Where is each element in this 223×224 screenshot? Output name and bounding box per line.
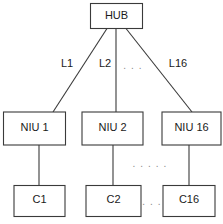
diagram-canvas: HUB NIU 1 NIU 2 NIU 16 C1 C2 C16 — [0, 0, 223, 224]
niu2-label: NIU 2 — [98, 121, 126, 133]
node-niu-16[interactable]: NIU 16 — [162, 112, 221, 145]
node-niu-2[interactable]: NIU 2 — [82, 112, 143, 145]
node-niu-1[interactable]: NIU 1 — [4, 112, 66, 145]
client-row-ellipsis: . . . — [142, 196, 161, 207]
link-label-l1: L1 — [61, 57, 73, 69]
c2-label: C2 — [106, 193, 120, 205]
link-label-l2: L2 — [99, 57, 111, 69]
niu1-label: NIU 1 — [20, 121, 48, 133]
node-client-2[interactable]: C2 — [86, 186, 141, 217]
c1-label: C1 — [32, 193, 46, 205]
node-client-16[interactable]: C16 — [163, 186, 215, 217]
links-ellipsis: . . . — [123, 60, 142, 71]
network-topology-diagram: HUB NIU 1 NIU 2 NIU 16 C1 C2 C16 — [0, 0, 223, 224]
c16-label: C16 — [179, 193, 199, 205]
link-line-l1 — [53, 29, 107, 113]
node-client-1[interactable]: C1 — [14, 186, 65, 217]
niu16-label: NIU 16 — [174, 121, 208, 133]
node-hub[interactable]: HUB — [91, 4, 143, 29]
niu-row-ellipsis: . . . . . — [133, 158, 168, 169]
link-label-l16: L16 — [169, 57, 187, 69]
hub-label: HUB — [105, 9, 128, 21]
